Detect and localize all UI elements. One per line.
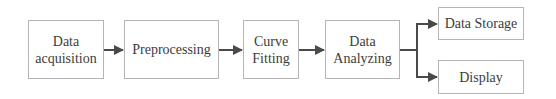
node-display: Display xyxy=(438,60,524,94)
arrow-analyzing-to-storage xyxy=(417,24,437,50)
arrow-analyzing-to-display xyxy=(417,50,437,77)
node-data-acquisition: Data acquisition xyxy=(28,20,104,79)
node-data-storage: Data Storage xyxy=(438,7,524,40)
node-curve-fitting: Curve Fitting xyxy=(243,20,299,79)
node-preprocessing: Preprocessing xyxy=(124,20,219,79)
node-data-analyzing: Data Analyzing xyxy=(325,20,400,79)
